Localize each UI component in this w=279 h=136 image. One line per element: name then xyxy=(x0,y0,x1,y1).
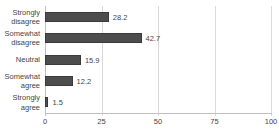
category-label: Neutral xyxy=(0,55,40,64)
bar xyxy=(45,55,81,65)
bar-value-label: 28.2 xyxy=(113,12,128,21)
survey-agreement-bar-chart: 025507510028.2Strongly disagree42.7Somew… xyxy=(0,0,279,136)
x-tick-label: 25 xyxy=(90,117,114,126)
category-label: Somewhat disagree xyxy=(0,29,40,48)
bar xyxy=(45,76,73,86)
x-tick-label: 50 xyxy=(146,117,170,126)
bar xyxy=(45,97,48,107)
x-tick-label: 75 xyxy=(203,117,227,126)
gridline xyxy=(158,6,159,116)
bar-value-label: 42.7 xyxy=(146,34,161,43)
gridline xyxy=(271,6,272,116)
category-label: Somewhat agree xyxy=(0,72,40,91)
bar-value-label: 1.5 xyxy=(52,98,62,107)
bar xyxy=(45,12,109,22)
x-axis-line xyxy=(45,113,272,114)
x-tick-label: 100 xyxy=(259,117,279,126)
gridline xyxy=(102,6,103,116)
bar-value-label: 12.2 xyxy=(77,76,92,85)
x-tick-label: 0 xyxy=(33,117,57,126)
gridline xyxy=(215,6,216,116)
category-label: Strongly agree xyxy=(0,93,40,112)
bar-value-label: 15.9 xyxy=(85,55,100,64)
bar xyxy=(45,33,142,43)
category-label: Strongly disagree xyxy=(0,7,40,26)
